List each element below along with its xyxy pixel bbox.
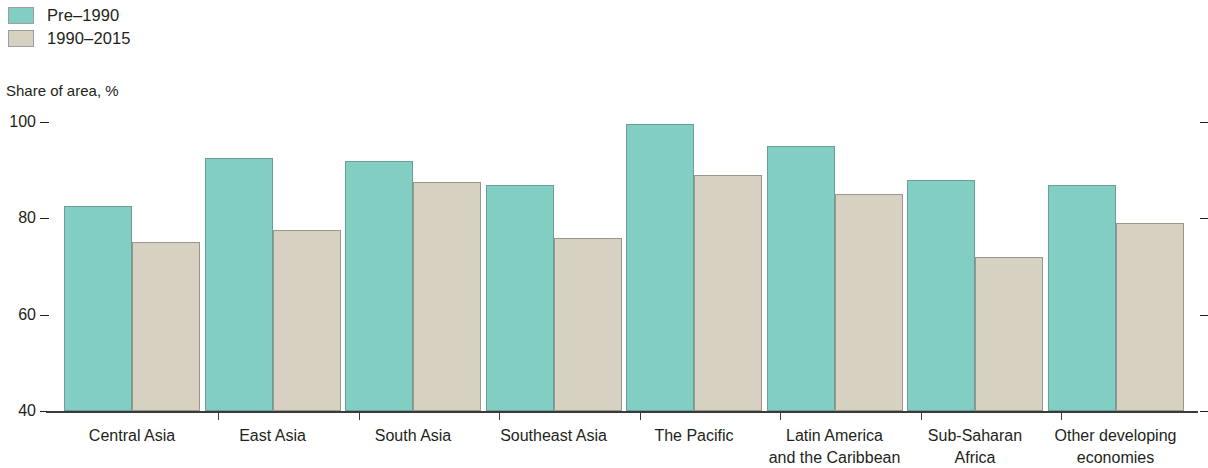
y-axis-tick-mark-right [1200,122,1208,123]
bar [626,124,694,411]
y-axis-tick-mark-right [1200,315,1208,316]
bar [1116,223,1184,411]
bar [835,194,903,411]
y-axis-tick-label: 60 [0,306,36,324]
x-axis-tick-mark [780,413,781,420]
x-axis-category-label: The Pacific [612,425,776,447]
y-axis-tick-mark [40,315,49,316]
bar [907,180,975,411]
bar [767,146,835,411]
bar [694,175,762,411]
bar [413,182,481,411]
y-axis-tick-mark-right [1200,411,1208,412]
x-axis-category-label: Sub-Saharan Africa [893,425,1057,468]
bar [486,185,554,411]
bar [205,158,273,411]
bar [975,257,1043,411]
y-axis-tick-label: 80 [0,209,36,227]
bar [132,242,200,411]
bar [273,230,341,411]
y-axis-tick-label: 40 [0,402,36,420]
plot-area: 406080100Central AsiaEast AsiaSouth Asia… [0,0,1208,468]
x-axis-category-label: Southeast Asia [472,425,636,447]
bar [64,206,132,411]
x-axis-tick-mark [499,413,500,420]
x-axis-category-label: South Asia [331,425,495,447]
bar [554,238,622,411]
x-axis-category-label: Latin America and the Caribbean [753,425,917,468]
y-axis-tick-mark [40,218,49,219]
x-axis-tick-mark [359,413,360,420]
y-axis-tick-label: 100 [0,113,36,131]
y-axis-tick-mark-right [1200,218,1208,219]
bar [345,161,413,411]
y-axis-tick-mark [40,122,49,123]
x-axis-category-label: Central Asia [50,425,214,447]
x-axis-tick-mark [218,413,219,420]
bar-chart: Pre–1990 1990–2015 Share of area, % 4060… [0,0,1208,468]
x-axis-tick-mark [640,413,641,420]
x-axis-tick-mark [1061,413,1062,420]
x-axis-category-label: East Asia [191,425,355,447]
x-axis-category-label: Other developing economies [1034,425,1198,468]
x-axis-tick-mark [921,413,922,420]
bar [1048,185,1116,411]
